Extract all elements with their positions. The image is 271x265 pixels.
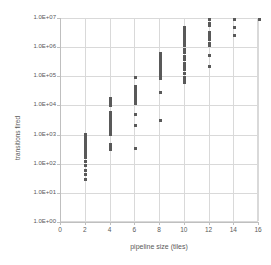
data-point: [84, 173, 87, 176]
data-point: [84, 169, 87, 172]
data-point: [183, 26, 186, 29]
x-tick-label: 16: [248, 226, 268, 233]
data-point: [208, 44, 211, 47]
x-tick-label: 12: [199, 226, 219, 233]
x-tick-label: 10: [174, 226, 194, 233]
x-axis-title: pipeline size (tiles): [60, 243, 258, 250]
data-point: [159, 91, 162, 94]
data-point: [84, 164, 87, 167]
data-point: [208, 22, 211, 25]
data-point: [208, 65, 211, 68]
gridline-vertical: [134, 19, 135, 221]
data-point: [134, 85, 137, 88]
y-tick-label: 1.0E+03: [0, 131, 56, 137]
x-tick-label: 2: [75, 226, 95, 233]
data-point: [208, 42, 211, 45]
scatter-chart: 1.0E+001.0E+011.0E+021.0E+031.0E+041.0E+…: [0, 0, 271, 265]
data-point: [84, 160, 87, 163]
data-point: [183, 72, 186, 75]
y-tick-mark: [57, 135, 60, 136]
data-point: [84, 178, 87, 181]
y-tick-label: 1.0E+05: [0, 72, 56, 78]
x-tick-label: 0: [50, 226, 70, 233]
data-point: [159, 119, 162, 122]
data-point: [183, 36, 186, 39]
y-axis-title: transitions fired: [14, 116, 21, 160]
y-tick-label: 1.0E+01: [0, 189, 56, 195]
y-tick-label: 1.0E+02: [0, 160, 56, 166]
x-tick-mark: [110, 222, 111, 225]
data-point: [208, 54, 211, 57]
data-point: [84, 153, 87, 156]
data-point: [183, 62, 186, 65]
data-point: [233, 18, 236, 21]
y-tick-mark: [57, 164, 60, 165]
gridline-vertical: [85, 19, 86, 221]
data-point: [183, 42, 186, 45]
data-point: [109, 97, 112, 100]
x-tick-label: 4: [100, 226, 120, 233]
data-point: [183, 55, 186, 58]
gridline-vertical: [209, 19, 210, 221]
y-axis-line: [60, 18, 61, 222]
data-point: [84, 133, 87, 136]
x-tick-mark: [209, 222, 210, 225]
data-point: [84, 156, 87, 159]
data-point: [258, 18, 261, 21]
x-tick-mark: [85, 222, 86, 225]
plot-area: [60, 18, 258, 222]
data-point: [159, 52, 162, 55]
data-point: [183, 39, 186, 42]
y-tick-label: 1.0E+00: [0, 218, 56, 224]
data-point: [233, 26, 236, 29]
gridline-vertical: [258, 19, 259, 221]
data-point: [183, 51, 186, 54]
data-point: [109, 143, 112, 146]
x-tick-mark: [233, 222, 234, 225]
data-point: [109, 111, 112, 114]
x-tick-label: 14: [223, 226, 243, 233]
gridline-vertical: [233, 19, 234, 221]
x-tick-mark: [258, 222, 259, 225]
data-point: [183, 76, 186, 79]
y-tick-mark: [57, 76, 60, 77]
x-tick-label: 8: [149, 226, 169, 233]
x-tick-mark: [60, 222, 61, 225]
y-tick-mark: [57, 105, 60, 106]
data-point: [134, 76, 137, 79]
data-point: [183, 48, 186, 51]
data-point: [134, 124, 137, 127]
data-point: [183, 44, 186, 47]
data-point: [233, 34, 236, 37]
y-tick-label: 1.0E+07: [0, 14, 56, 20]
data-point: [183, 68, 186, 71]
data-point: [134, 147, 137, 150]
y-tick-mark: [57, 18, 60, 19]
data-point: [208, 31, 211, 34]
data-point: [183, 58, 186, 61]
data-point: [183, 65, 186, 68]
y-tick-mark: [57, 193, 60, 194]
data-point: [134, 113, 137, 116]
x-tick-label: 6: [124, 226, 144, 233]
x-tick-mark: [134, 222, 135, 225]
x-tick-mark: [159, 222, 160, 225]
x-tick-mark: [184, 222, 185, 225]
y-tick-label: 1.0E+06: [0, 43, 56, 49]
y-tick-label: 1.0E+04: [0, 101, 56, 107]
data-point: [208, 18, 211, 21]
y-tick-mark: [57, 47, 60, 48]
